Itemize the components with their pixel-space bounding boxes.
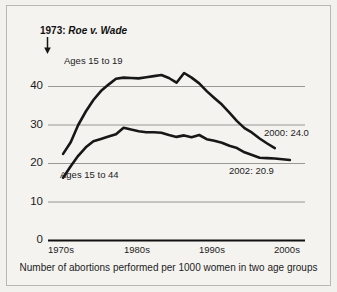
series-label-ages-15-to-19: Ages 15 to 19 (64, 56, 123, 66)
y-axis-tick-0: 0 (21, 234, 43, 246)
y-axis-tick-30: 30 (21, 119, 43, 131)
series-label-ages-15-to-44: Ages 15 to 44 (60, 170, 119, 180)
annotation-roe-case: Roe v. Wade (68, 25, 127, 36)
x-axis-tick-1990s: 1990s (199, 245, 225, 255)
annotation-upper-end-value: 2000: 24.0 (264, 128, 309, 138)
annotation-roe-v-wade: 1973: Roe v. Wade (40, 26, 127, 36)
roe-v-wade-arrow-icon (44, 37, 51, 54)
x-axis-tick-1970s: 1970s (48, 245, 74, 255)
chart-figure: 40 30 20 10 0 1970s 1980s 1990s 2000s Ag… (0, 0, 337, 292)
y-axis-tick-40: 40 (21, 80, 43, 92)
y-axis-tick-20: 20 (21, 157, 43, 169)
chart-caption: Number of abortions performed per 1000 w… (0, 262, 337, 273)
x-axis-tick-2000s: 2000s (274, 245, 300, 255)
x-axis-tick-1980s: 1980s (124, 245, 150, 255)
annotation-lower-end-value: 2002: 20.9 (229, 166, 274, 176)
y-axis-tick-10: 10 (21, 196, 43, 208)
annotation-roe-year: 1973: (40, 25, 66, 36)
